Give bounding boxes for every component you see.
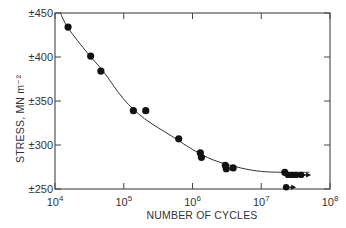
y-tick-label: ±450	[29, 7, 53, 19]
x-tick-label: 105	[115, 194, 132, 208]
data-points	[64, 23, 288, 175]
y-tick-label: ±250	[29, 183, 53, 195]
y-tick-label: ±400	[29, 51, 53, 63]
data-point	[64, 23, 71, 30]
y-axis-title: STRESS, MN m⁻²	[14, 75, 26, 163]
data-point	[175, 135, 182, 142]
arrow-right-icon	[306, 172, 311, 177]
data-point	[198, 154, 205, 161]
data-point	[142, 107, 149, 114]
data-point	[230, 164, 237, 171]
runout-points	[283, 172, 311, 191]
data-point	[87, 53, 94, 60]
x-tick-label: 106	[184, 194, 201, 208]
fitted-curve	[60, 13, 309, 172]
plot-frame	[55, 13, 330, 189]
x-tick-label: 107	[253, 194, 270, 208]
x-axis-title: NUMBER OF CYCLES	[146, 209, 257, 221]
x-axis-ticks: 104105106107108	[47, 13, 339, 208]
data-point	[223, 165, 230, 172]
data-point	[130, 107, 137, 114]
data-point	[97, 67, 104, 74]
sn-fatigue-chart: ±450±400±350±300±250 104105106107108 NUM…	[0, 0, 346, 228]
y-tick-label: ±350	[29, 95, 53, 107]
x-tick-label: 108	[322, 194, 339, 208]
x-tick-label: 104	[47, 194, 64, 208]
y-tick-label: ±300	[29, 139, 53, 151]
